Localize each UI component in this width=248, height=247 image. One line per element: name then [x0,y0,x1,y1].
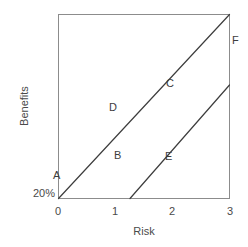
risk-benefits-chart: 20% 0 1 2 3 Risk Benefits A B C D E F [0,0,248,247]
y-axis-title: Benefits [18,46,30,166]
x-axis-tick-3: 3 [220,206,240,217]
x-axis-tick-2: 2 [162,206,182,217]
x-axis-tick-1: 1 [105,206,125,217]
point-label-d: D [109,102,117,113]
line-segment-e [130,85,230,199]
point-label-e: E [165,151,172,162]
point-label-c: C [166,78,174,89]
point-label-a: A [53,170,60,181]
point-label-b: B [114,150,121,161]
point-label-f: F [232,35,239,46]
x-axis-tick-0: 0 [48,206,68,217]
y-axis-origin-label: 20% [21,188,55,199]
line-segment-af [59,15,230,199]
x-axis-title: Risk [58,225,230,237]
